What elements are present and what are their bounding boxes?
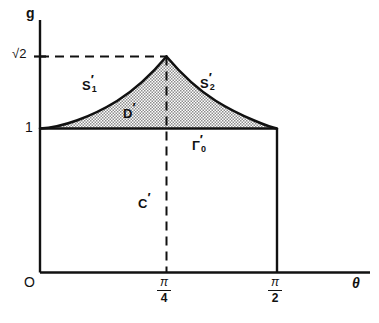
curve-label-s2-subscript: 2	[210, 82, 215, 92]
region-label-d-prime: D′	[123, 101, 136, 120]
x-tick-pi-over-2-numerator: π	[268, 276, 282, 291]
x-tick-pi-over-4-numerator: π	[157, 276, 171, 291]
curve-label-s1-base: S	[82, 78, 91, 93]
region-label-prime: ′	[132, 100, 135, 115]
diagram-canvas	[0, 0, 379, 323]
x-axis-label: θ	[352, 276, 360, 290]
y-tick-label-one: 1	[25, 120, 33, 134]
lower-region-label-base: C	[138, 196, 147, 211]
baseline-label-base: Γ	[192, 138, 200, 153]
baseline-label-gamma-prime-zero: Γ′0	[192, 133, 206, 154]
lower-region-label-prime: ′	[147, 190, 150, 205]
x-tick-label-pi-over-4: π 4	[157, 276, 171, 304]
figure-container: g θ O √2 1 π 4 π 2 S′1 S′2 Γ′0 D′ C′	[0, 0, 379, 323]
baseline-label-subscript: 0	[201, 144, 206, 154]
y-axis-label: g	[26, 6, 35, 20]
region-label-base: D	[123, 106, 132, 121]
x-tick-pi-over-4-denominator: 4	[157, 291, 171, 305]
origin-label: O	[24, 275, 35, 289]
y-tick-label-sqrt2: √2	[12, 47, 26, 60]
curve-label-s-prime-1: S′1	[82, 73, 97, 94]
curve-label-s2-base: S	[200, 76, 209, 91]
x-tick-pi-over-2-denominator: 2	[268, 291, 282, 305]
region-label-c-prime: C′	[138, 191, 151, 210]
curve-label-s1-subscript: 1	[92, 84, 97, 94]
x-tick-label-pi-over-2: π 2	[268, 276, 282, 304]
curve-label-s-prime-2: S′2	[200, 71, 215, 92]
